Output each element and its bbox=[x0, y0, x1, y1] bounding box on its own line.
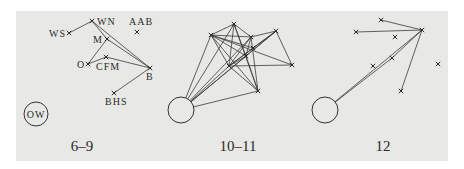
node-label-aab: AAB bbox=[129, 16, 153, 27]
node-label-wn: WN bbox=[97, 16, 116, 27]
group-circle-label: OW bbox=[27, 109, 46, 120]
panel-caption: 12 bbox=[376, 138, 391, 154]
network-diagram-figure: OWWSWNAABMOCFMBBHS6–9 10–11 12 bbox=[0, 0, 464, 169]
node-label-b: B bbox=[146, 71, 154, 82]
node-label-bhs: BHS bbox=[105, 96, 127, 107]
panel-caption: 6–9 bbox=[71, 138, 94, 154]
node-label-cfm: CFM bbox=[96, 61, 120, 72]
node-label-m: M bbox=[93, 34, 103, 45]
node-label-o: O bbox=[77, 59, 85, 70]
panel-caption: 10–11 bbox=[220, 138, 257, 154]
node-label-ws: WS bbox=[49, 28, 66, 39]
diagram-canvas: OWWSWNAABMOCFMBBHS6–9 10–11 12 bbox=[0, 0, 464, 169]
